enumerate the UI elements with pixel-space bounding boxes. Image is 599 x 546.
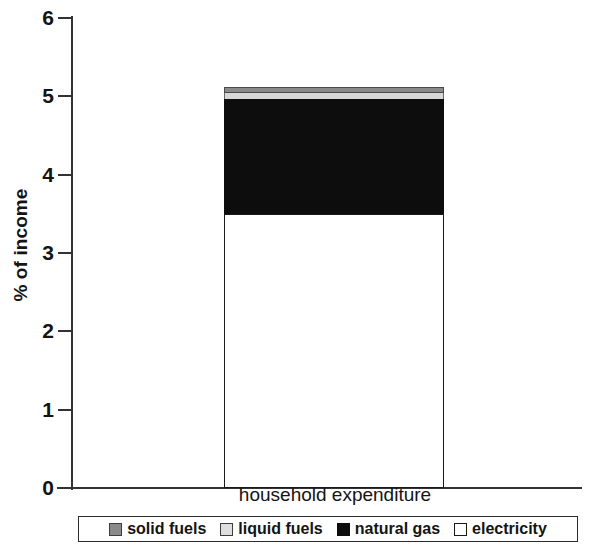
electricity-swatch-icon xyxy=(454,523,467,536)
y-axis-tick-label: 1 xyxy=(4,399,54,420)
y-axis-tick-label: 3 xyxy=(4,242,54,263)
legend-label: electricity xyxy=(472,521,547,537)
y-axis-tick-mark xyxy=(58,330,72,332)
liquid-fuels-swatch-icon xyxy=(220,523,233,536)
legend-label: liquid fuels xyxy=(238,521,322,537)
y-axis-tick-label: 0 xyxy=(4,477,54,498)
solid-fuels-swatch-icon xyxy=(109,523,122,536)
y-axis-tick-mark xyxy=(58,409,72,411)
y-axis-tick-mark xyxy=(58,252,72,254)
y-axis-tick-label: 5 xyxy=(4,85,54,106)
plot-area: 6543210 household expenditure xyxy=(0,0,599,500)
chart-container: % of income 6543210 household expenditur… xyxy=(0,0,599,546)
y-axis-tick-label: 4 xyxy=(4,164,54,185)
y-axis-tick-label: 6 xyxy=(4,7,54,28)
legend-item-solid-fuels[interactable]: solid fuels xyxy=(109,521,206,537)
bar-segment-natural-gas xyxy=(224,99,444,214)
y-axis-tick-mark xyxy=(58,95,72,97)
legend-item-natural-gas[interactable]: natural gas xyxy=(337,521,440,537)
bar-segment-electricity xyxy=(224,214,444,488)
y-axis-tick-mark xyxy=(58,487,72,489)
y-axis-tick-mark xyxy=(58,17,72,19)
bar-segment-liquid-fuels xyxy=(224,93,444,98)
natural-gas-swatch-icon xyxy=(337,523,350,536)
bar-household-expenditure xyxy=(224,87,444,488)
x-axis-category-label: household expenditure xyxy=(150,484,520,506)
legend-item-electricity[interactable]: electricity xyxy=(454,521,547,537)
y-axis-tick-mark xyxy=(58,174,72,176)
legend-item-liquid-fuels[interactable]: liquid fuels xyxy=(220,521,322,537)
legend-label: solid fuels xyxy=(127,521,206,537)
y-axis-tick-label: 2 xyxy=(4,320,54,341)
bar-segment-solid-fuels xyxy=(224,87,444,93)
legend-label: natural gas xyxy=(355,521,440,537)
chart-legend: solid fuelsliquid fuelsnatural gaselectr… xyxy=(78,516,578,542)
